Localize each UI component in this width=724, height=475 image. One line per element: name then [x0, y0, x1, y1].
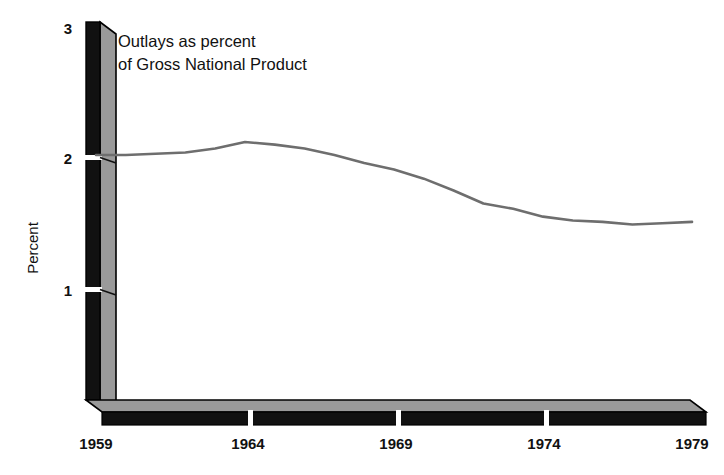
chart-container: 3 2 1 1959 1964 1969 1974 1979 Percent O…: [0, 0, 724, 475]
data-line-outlays-pct-gnp: [96, 142, 692, 225]
y-axis-front-face: [86, 22, 100, 400]
gnp-outlays-line-chart: 3 2 1 1959 1964 1969 1974 1979 Percent O…: [0, 0, 724, 475]
x-axis-front-face: [102, 412, 706, 425]
y-tick-label-1: 1: [64, 282, 72, 299]
x-tick-1974: [544, 410, 549, 427]
y-axis-label: Percent: [24, 221, 41, 274]
x-tick-1969: [396, 410, 401, 427]
y-axis-3d-block: [86, 22, 116, 412]
x-tick-label-1969: 1969: [379, 435, 412, 452]
x-tick-label-1974: 1974: [527, 435, 561, 452]
y-axis-side-face: [100, 22, 116, 412]
chart-title-line-2: of Gross National Product: [118, 55, 307, 73]
x-tick-label-1959: 1959: [79, 435, 112, 452]
y-tick-1: [84, 287, 102, 292]
x-tick-label-1964: 1964: [231, 435, 265, 452]
y-tick-label-2: 2: [64, 150, 72, 167]
chart-title-line-1: Outlays as percent: [118, 32, 256, 50]
x-tick-label-1979: 1979: [675, 435, 708, 452]
x-tick-1964: [248, 410, 253, 427]
y-tick-label-3: 3: [64, 20, 72, 37]
